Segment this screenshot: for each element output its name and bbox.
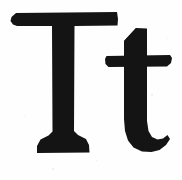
lowercase-t-crossbar <box>105 55 172 67</box>
paper-background <box>0 0 182 180</box>
letterform-specimen-image: Tt <box>0 0 182 180</box>
glyph-canvas <box>0 0 182 180</box>
